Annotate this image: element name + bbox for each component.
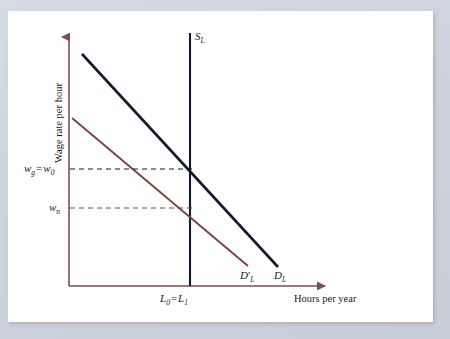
supply-curve-label: SL [195, 31, 205, 42]
quantity-sub: 0 [166, 298, 170, 307]
x-axis-title: Hours per year [294, 294, 356, 305]
demand-curve-original-label: DL [274, 270, 286, 281]
figure-canvas: Wage rate per hour Hours per year SL D′L… [8, 11, 433, 322]
supply-label-sub: L [201, 36, 205, 45]
y-axis-title: Wage rate per hour [54, 83, 65, 163]
quantity-tick-label: L0=L1 [160, 293, 188, 304]
gross-wage-sub2: 0 [51, 168, 55, 177]
quantity-equals: = [170, 292, 178, 304]
net-wage-sub: n [56, 207, 60, 216]
gross-wage-tick-label: wg=w0 [24, 163, 54, 174]
plot-area [8, 11, 433, 322]
gross-wage-sub: g [31, 168, 35, 177]
supply-label-base: S [195, 30, 201, 42]
net-wage-tick-label: wn [49, 202, 60, 213]
quantity-sub2: 1 [184, 298, 188, 307]
demand-original-label-base: D [274, 269, 282, 281]
demand-curve-original-line [82, 54, 278, 267]
demand-original-label-sub: L [282, 275, 286, 284]
gross-wage-base2: w [43, 162, 50, 174]
figure-root: Wage rate per hour Hours per year SL D′L… [0, 0, 450, 339]
demand-shifted-label-base: D [240, 269, 248, 281]
demand-shifted-label-sub: L [250, 275, 254, 284]
demand-curve-shifted-label: D′L [240, 270, 255, 281]
